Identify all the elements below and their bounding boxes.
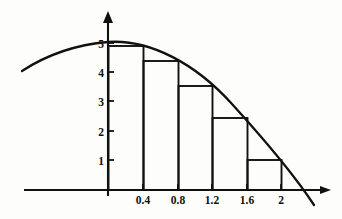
x-tick-label-0: 0.4 bbox=[136, 194, 151, 206]
x-tick-labels: 0.4 0.8 1.2 1.6 2 bbox=[136, 194, 284, 206]
y-tick-label-1: 2 bbox=[98, 126, 104, 138]
x-axis-arrow-icon bbox=[320, 186, 331, 194]
bar-3 bbox=[213, 118, 248, 190]
parabola-curve bbox=[22, 42, 314, 205]
bar-group bbox=[109, 46, 282, 190]
riemann-sum-figure: 0.4 0.8 1.2 1.6 2 1 2 3 4 5 bbox=[0, 0, 342, 219]
bar-1 bbox=[144, 61, 179, 190]
bar-2 bbox=[179, 86, 213, 190]
plot-canvas: 0.4 0.8 1.2 1.6 2 1 2 3 4 5 bbox=[0, 0, 342, 219]
y-tick-label-2: 3 bbox=[98, 96, 104, 108]
x-tick-label-3: 1.6 bbox=[240, 194, 255, 206]
y-tick-label-3: 4 bbox=[98, 67, 104, 79]
y-tick-labels: 1 2 3 4 5 bbox=[98, 38, 104, 167]
y-axis-arrow-icon bbox=[103, 11, 113, 23]
y-tick-label-4: 5 bbox=[98, 38, 104, 50]
x-tick-label-4: 2 bbox=[278, 194, 284, 206]
x-tick-label-1: 0.8 bbox=[171, 194, 186, 206]
x-tick-label-2: 1.2 bbox=[205, 194, 220, 206]
bar-4 bbox=[248, 160, 282, 190]
y-tick-label-0: 1 bbox=[98, 155, 104, 167]
bar-0 bbox=[109, 46, 144, 190]
